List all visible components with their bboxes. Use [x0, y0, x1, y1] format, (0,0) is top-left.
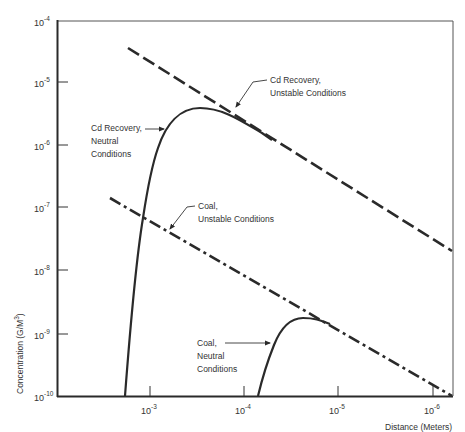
- chart: 10-4 10-5 10-6 10-7 10-8 10-9 10-10 10-3…: [0, 0, 465, 432]
- y-tick-label: 10-9: [34, 328, 50, 341]
- svg-text:Neutral: Neutral: [197, 351, 225, 361]
- svg-text:Coal,: Coal,: [197, 338, 217, 348]
- annotation-cd-recovery-neutral: Cd Recovery, Neutral Conditions: [91, 123, 164, 159]
- x-tick-label: 10-6: [424, 403, 440, 416]
- x-tick-label: 10-5: [329, 403, 345, 416]
- svg-text:Cd Recovery,: Cd Recovery,: [91, 123, 142, 133]
- x-tick-label: 10-3: [141, 403, 157, 416]
- svg-text:Conditions: Conditions: [197, 364, 237, 374]
- annotation-cd-recovery-unstable: Cd Recovery, Unstable Conditions: [236, 75, 346, 107]
- annotation-coal-unstable: Coal, Unstable Conditions: [170, 201, 274, 229]
- y-tick-label: 10-7: [34, 201, 50, 214]
- plot-frame: [57, 20, 453, 397]
- svg-text:Cd Recovery,: Cd Recovery,: [270, 75, 321, 85]
- svg-text:Coal,: Coal,: [198, 201, 218, 211]
- annotation-coal-neutral: Coal, Neutral Conditions: [197, 338, 270, 374]
- y-axis-title: Concentration (G/M3): [13, 313, 25, 394]
- series-coal-neutral: [258, 318, 330, 396]
- x-ticks: [150, 386, 433, 396]
- series-coal-unstable: [110, 198, 452, 396]
- y-tick-label: 10-10: [34, 390, 54, 403]
- svg-text:Unstable Conditions: Unstable Conditions: [270, 88, 346, 98]
- x-tick-labels: 10-3 10-4 10-5 10-6: [141, 403, 440, 416]
- y-tick-label: 10-8: [34, 264, 50, 277]
- y-ticks: [57, 82, 68, 334]
- svg-text:Conditions: Conditions: [91, 149, 131, 159]
- y-tick-label: 10-6: [34, 139, 50, 152]
- svg-text:Unstable Conditions: Unstable Conditions: [198, 214, 274, 224]
- x-tick-label: 10-4: [235, 403, 251, 416]
- y-tick-label: 10-5: [34, 76, 50, 89]
- y-tick-labels: 10-4 10-5 10-6 10-7 10-8 10-9 10-10: [34, 15, 54, 403]
- y-tick-label: 10-4: [34, 15, 50, 28]
- x-axis-title: Distance (Meters): [385, 422, 452, 432]
- svg-text:Neutral: Neutral: [91, 136, 119, 146]
